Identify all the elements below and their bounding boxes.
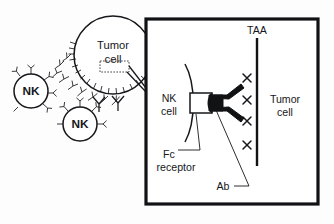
panel-fc-label-line1: Fc (163, 148, 175, 160)
adcc-figure: NK NK Tumor cell (0, 0, 334, 224)
overview-tumor-label-line2: cell (105, 53, 122, 65)
panel-tumor-label-line2: cell (277, 106, 293, 118)
panel-nk-label-line1: NK (162, 92, 177, 104)
overview-tumor-label-line1: Tumor (97, 39, 129, 51)
magnified-panel: TAA (146, 19, 318, 204)
panel-tumor-label-line1: Tumor (270, 93, 301, 105)
panel-fc-label-line2: receptor (157, 161, 196, 173)
nk-cell-1-label: NK (22, 84, 40, 98)
overview-group: NK NK Tumor cell (12, 16, 152, 141)
panel-nk-label-line2: cell (161, 105, 177, 117)
antibody-fc-stem (209, 95, 223, 111)
panel-ab-label: Ab (217, 180, 230, 192)
overview-antibody-secondary (93, 97, 105, 112)
overview-nk-cell-1: NK (12, 65, 57, 113)
figure-canvas: NK NK Tumor cell (0, 0, 334, 224)
panel-taa-label: TAA (247, 24, 268, 36)
nk-cell-2-label: NK (71, 117, 89, 131)
